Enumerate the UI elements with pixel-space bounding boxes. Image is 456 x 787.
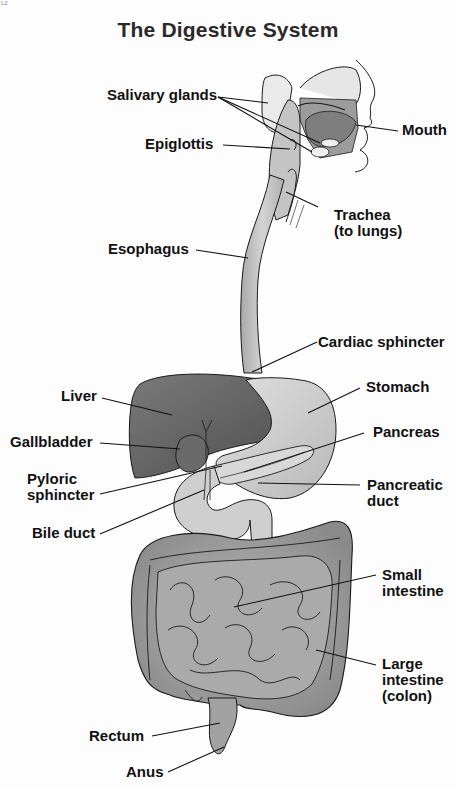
esophagus-shape: [241, 175, 284, 373]
label-stomach: Stomach: [366, 379, 429, 395]
label-mouth: Mouth: [402, 122, 447, 138]
label-pancreas: Pancreas: [373, 424, 440, 440]
label-liver: Liver: [61, 388, 97, 404]
label-rectum: Rectum: [89, 728, 144, 744]
submandibular-gland: [311, 147, 329, 157]
digestive-system-diagram: L2 The Digestive System: [0, 0, 456, 787]
label-cardiac-sphincter: Cardiac sphincter: [318, 334, 445, 350]
label-pancreatic-duct: Pancreatic duct: [367, 477, 443, 509]
label-bile-duct: Bile duct: [32, 525, 95, 541]
label-gallbladder: Gallbladder: [10, 434, 93, 450]
gallbladder-shape: [176, 435, 208, 472]
label-anus: Anus: [126, 764, 164, 780]
label-epiglottis: Epiglottis: [145, 136, 213, 152]
rectum-shape: [208, 698, 237, 754]
label-esophagus: Esophagus: [108, 241, 189, 257]
sublingual-gland: [321, 139, 339, 147]
label-salivary-glands: Salivary glands: [107, 87, 217, 103]
label-trachea: Trachea (to lungs): [334, 207, 402, 239]
label-small-intestine: Small intestine: [382, 567, 444, 599]
label-pyloric-sphincter: Pyloric sphincter: [27, 471, 95, 503]
label-large-intestine: Large intestine (colon): [382, 656, 444, 704]
